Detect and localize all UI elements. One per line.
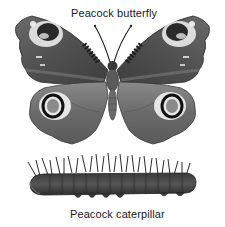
butterfly-label: Peacock butterfly <box>71 7 157 19</box>
caterpillar-spines <box>28 153 190 176</box>
left-hindwing <box>30 82 109 144</box>
butterfly <box>16 16 210 144</box>
right-hindwing <box>117 82 196 144</box>
caterpillar <box>28 153 196 198</box>
antennae-icon <box>94 25 132 62</box>
caterpillar-label: Peacock caterpillar <box>70 208 165 220</box>
illustration-canvas <box>0 0 225 227</box>
